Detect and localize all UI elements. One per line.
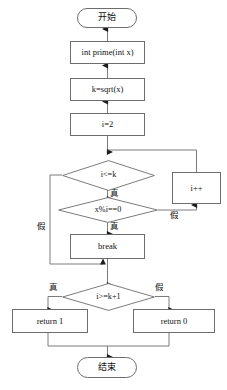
- node-return-one: return 1: [12, 309, 88, 333]
- node-return-zero-label: return 0: [161, 317, 188, 326]
- edge-label-mod-false: 假: [170, 211, 179, 220]
- node-signature: int prime(int x): [70, 41, 145, 64]
- node-init: i=2: [70, 113, 145, 136]
- node-break-label: break: [98, 242, 117, 251]
- node-cond-loop-label: i<=k: [101, 171, 117, 180]
- node-sqrt: k=sqrt(x): [70, 78, 145, 101]
- node-signature-label: int prime(int x): [82, 48, 134, 57]
- node-break: break: [70, 234, 145, 259]
- node-cond-result-label: i>=k+1: [96, 293, 120, 302]
- node-end: 结束: [77, 357, 137, 378]
- node-increment-label: i++: [191, 184, 203, 193]
- node-sqrt-label: k=sqrt(x): [92, 85, 124, 94]
- node-return-one-label: return 1: [37, 317, 64, 326]
- node-cond-mod: x%i==0: [58, 197, 158, 223]
- node-end-label: 结束: [98, 363, 116, 372]
- flowchart-canvas: 开始 int prime(int x) k=sqrt(x) i=2 i<=k x…: [0, 0, 227, 390]
- node-cond-loop: i<=k: [62, 160, 155, 191]
- edge-label-result-false: 假: [155, 283, 164, 292]
- edge-label-mod-true: 真: [110, 222, 119, 231]
- node-start-label: 开始: [98, 13, 116, 22]
- node-increment: i++: [172, 172, 221, 204]
- node-cond-result: i>=k+1: [62, 283, 155, 311]
- node-cond-mod-label: x%i==0: [95, 206, 122, 215]
- edge-label-loop-false: 假: [37, 222, 46, 231]
- edge-label-result-true: 真: [49, 283, 58, 292]
- node-init-label: i=2: [102, 120, 113, 129]
- node-start: 开始: [77, 8, 137, 28]
- node-return-zero: return 0: [133, 309, 215, 333]
